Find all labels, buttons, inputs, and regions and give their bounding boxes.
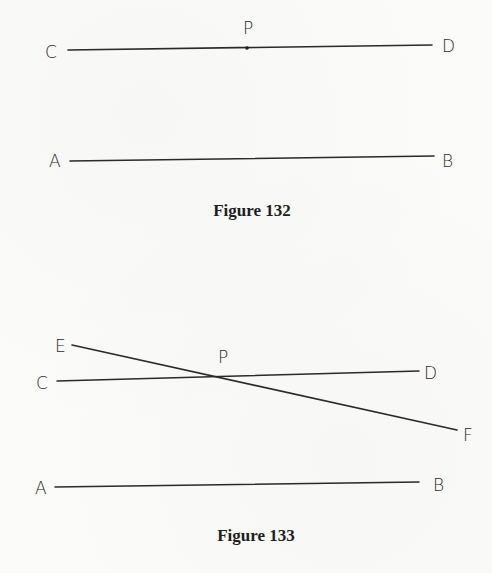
textbook-page: C D P A B Figure 132 E C P D F A B Figur… bbox=[0, 0, 492, 573]
label-p: P bbox=[218, 347, 228, 367]
point-p-marker bbox=[245, 46, 249, 50]
label-d: D bbox=[424, 363, 437, 383]
segment-ab bbox=[55, 482, 419, 487]
segment-ef bbox=[72, 345, 457, 430]
segment-cd bbox=[57, 371, 419, 381]
label-p: P bbox=[243, 18, 253, 38]
label-a: A bbox=[49, 151, 61, 171]
segment-ab bbox=[70, 156, 434, 161]
label-c: C bbox=[45, 42, 57, 62]
label-b: B bbox=[442, 151, 453, 171]
label-e: E bbox=[55, 336, 66, 356]
geometry-diagrams: C D P A B Figure 132 E C P D F A B Figur… bbox=[0, 0, 492, 573]
figure-133: E C P D F A B Figure 133 bbox=[35, 336, 473, 545]
label-c: C bbox=[36, 373, 48, 393]
figure-132: C D P A B Figure 132 bbox=[45, 18, 455, 220]
label-f: F bbox=[463, 425, 473, 445]
label-b: B bbox=[433, 475, 444, 495]
segment-cd bbox=[68, 45, 432, 50]
figure-caption: Figure 132 bbox=[213, 201, 291, 220]
figure-caption: Figure 133 bbox=[217, 526, 295, 545]
label-a: A bbox=[35, 478, 47, 498]
label-d: D bbox=[442, 36, 455, 56]
